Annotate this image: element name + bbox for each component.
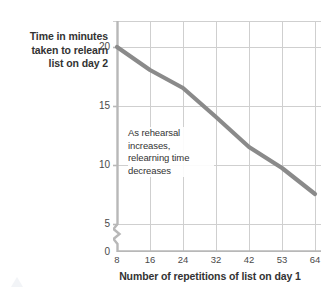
- x-tick-label-53: 53: [269, 255, 295, 265]
- x-tick-label-8: 8: [104, 255, 130, 265]
- y-tick-label-20: 20: [84, 42, 110, 52]
- corner-triangle-icon: [10, 276, 24, 288]
- y-tick-label-10: 10: [84, 160, 110, 170]
- x-tick-label-24: 24: [170, 255, 196, 265]
- chart-figure: Time in minutes taken to relearn list on…: [0, 0, 327, 293]
- x-tick-label-32: 32: [203, 255, 229, 265]
- plot-annotation: As rehearsal increases, relearning time …: [128, 127, 214, 177]
- plot-annotation-line-1: As rehearsal: [128, 127, 214, 140]
- y-axis-title-line-3: list on day 2: [4, 57, 108, 71]
- x-tick-label-42: 42: [236, 255, 262, 265]
- y-tick-label-5: 5: [84, 219, 110, 229]
- y-tick-label-15: 15: [84, 101, 110, 111]
- x-axis-title: Number of repetitions of list on day 1: [95, 270, 325, 282]
- plot-annotation-line-3: relearning time: [128, 152, 214, 165]
- plot-annotation-line-2: increases,: [128, 140, 214, 153]
- x-tick-label-64: 64: [302, 255, 327, 265]
- plot-annotation-line-4: decreases: [128, 165, 214, 178]
- x-tick-label-16: 16: [137, 255, 163, 265]
